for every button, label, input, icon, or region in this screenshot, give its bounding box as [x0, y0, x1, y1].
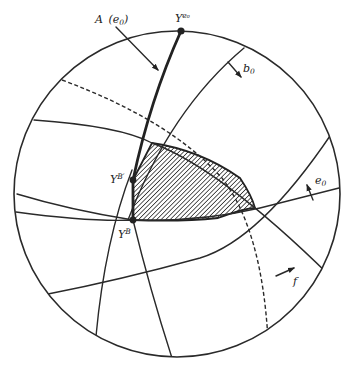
- label-f: f: [292, 275, 299, 288]
- hatched-region: [133, 143, 255, 221]
- label-A-e0: A (e0): [94, 13, 128, 27]
- label-Y-e0: Ye₀: [175, 11, 190, 25]
- arrow-b0: [228, 62, 241, 77]
- label-Y-Bprime: YB′: [110, 172, 125, 186]
- point-Y-e0: [177, 27, 184, 34]
- arc-left-vertical: [96, 170, 132, 336]
- arrow-f: [276, 268, 294, 276]
- label-Y-B: YB: [118, 227, 131, 241]
- point-Y-Bprime: [130, 177, 137, 184]
- label-e0: e0: [315, 174, 327, 188]
- label-b0: b0: [243, 62, 255, 76]
- sphere-projection-diagram: A (e0) Ye₀ YB′ YB b0 e0 f: [0, 0, 349, 367]
- point-Y-B: [130, 217, 137, 224]
- arc-from-YB: [133, 220, 172, 358]
- arrow-e0: [307, 185, 313, 200]
- arc-left-top: [17, 194, 133, 220]
